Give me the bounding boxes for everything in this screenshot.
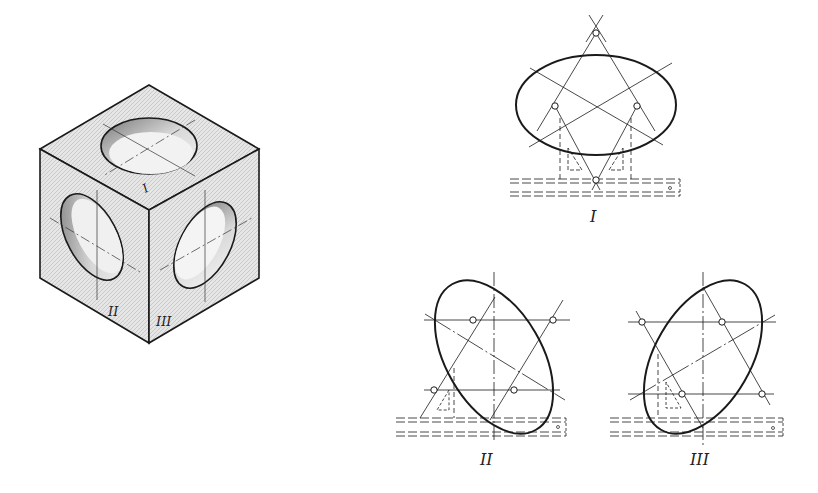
isometric-cube: I II III (40, 85, 259, 343)
label-II: II (479, 450, 493, 469)
construction-III (610, 260, 787, 453)
label-III: III (689, 450, 710, 469)
cube-label-right: III (155, 314, 172, 329)
cube-label-left: II (107, 304, 119, 319)
construction-I (510, 15, 680, 196)
construction-II (396, 260, 578, 453)
label-I: I (589, 207, 597, 226)
ellipse-I (516, 55, 676, 155)
diagram-canvas: I II III I (0, 0, 818, 493)
